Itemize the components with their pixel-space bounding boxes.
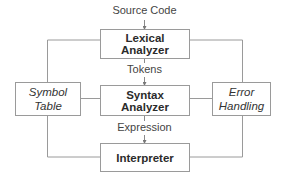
interpreter-box: Interpreter — [100, 143, 190, 172]
symbol-table-box: Symbol Table — [15, 82, 81, 116]
symbol-table-label-line1: Symbol — [29, 85, 67, 99]
lexical-analyzer-box: Lexical Analyzer — [100, 29, 190, 59]
error-handling-label-line1: Error — [229, 85, 255, 99]
source-code-text: Source Code — [112, 4, 176, 16]
tokens-text: Tokens — [127, 63, 162, 75]
interpreter-label: Interpreter — [116, 152, 174, 164]
expression-label: Expression — [111, 121, 178, 133]
expression-text: Expression — [117, 121, 171, 133]
symbol-table-label-line2: Table — [34, 99, 62, 113]
error-handling-box: Error Handling — [212, 82, 271, 116]
tokens-label: Tokens — [119, 63, 170, 75]
lexical-analyzer-label: Lexical Analyzer — [101, 32, 189, 56]
syntax-analyzer-box: Syntax Analyzer — [100, 85, 190, 116]
syntax-analyzer-label: Syntax Analyzer — [101, 89, 189, 113]
error-handling-label-line2: Handling — [219, 99, 264, 113]
source-code-label: Source Code — [104, 4, 185, 16]
